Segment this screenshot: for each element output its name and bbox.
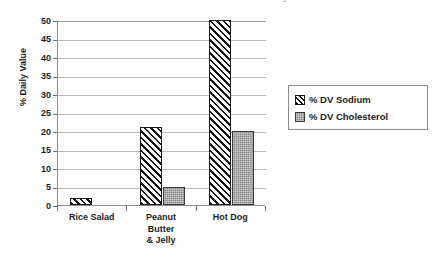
- x-axis-tick-mark: [126, 206, 127, 211]
- x-axis-category-label: Hot Dog: [196, 212, 265, 224]
- gridline: [58, 40, 266, 41]
- y-axis-tick-label: 40: [17, 54, 51, 63]
- x-axis-category-line: Hot Dog: [196, 212, 265, 224]
- x-axis-category-label: Rice Salad: [57, 212, 126, 224]
- y-axis-tick-label: 15: [17, 146, 51, 155]
- legend-swatch-sodium: [295, 95, 305, 105]
- bar-sodium: [140, 127, 162, 205]
- legend-label-cholesterol: % DV Cholesterol: [309, 111, 388, 122]
- y-axis-tick-label: 30: [17, 91, 51, 100]
- y-axis-tick-label: 45: [17, 35, 51, 44]
- gridline: [58, 58, 266, 59]
- y-axis-tick-label: 50: [17, 17, 51, 26]
- chart-figure: How much salt and cholesterol is in your…: [0, 0, 444, 269]
- gridline: [58, 95, 266, 96]
- gridline: [58, 77, 266, 78]
- x-axis-category-line: Butter: [126, 224, 195, 236]
- x-axis-category-line: & Jelly: [126, 235, 195, 247]
- gridline: [58, 114, 266, 115]
- legend-item-cholesterol: % DV Cholesterol: [295, 108, 427, 125]
- plot-area: [57, 21, 265, 206]
- legend-swatch-cholesterol: [295, 112, 305, 122]
- bar-cholesterol: [232, 131, 254, 205]
- y-axis-tick-label: 25: [17, 109, 51, 118]
- chart-legend: % DV Sodium % DV Cholesterol: [288, 85, 428, 130]
- bar-sodium: [70, 198, 92, 205]
- x-axis-tick-mark: [196, 206, 197, 211]
- legend-label-sodium: % DV Sodium: [309, 94, 371, 105]
- gridline: [58, 21, 266, 22]
- x-axis-category-line: Rice Salad: [57, 212, 126, 224]
- y-axis-tick-label: 10: [17, 165, 51, 174]
- y-axis-tick-label: 0: [17, 202, 51, 211]
- bar-sodium: [209, 20, 231, 205]
- bar-cholesterol: [163, 187, 185, 206]
- chart-title: How much salt and cholesterol is in your…: [0, 0, 444, 2]
- legend-item-sodium: % DV Sodium: [295, 91, 427, 108]
- y-axis-tick-label: 5: [17, 183, 51, 192]
- x-axis-category-label: PeanutButter& Jelly: [126, 212, 195, 247]
- x-axis-category-line: Peanut: [126, 212, 195, 224]
- y-axis-tick-label: 20: [17, 128, 51, 137]
- x-axis-tick-mark: [265, 206, 266, 211]
- y-axis-tick-label: 35: [17, 72, 51, 81]
- x-axis-tick-mark: [57, 206, 58, 211]
